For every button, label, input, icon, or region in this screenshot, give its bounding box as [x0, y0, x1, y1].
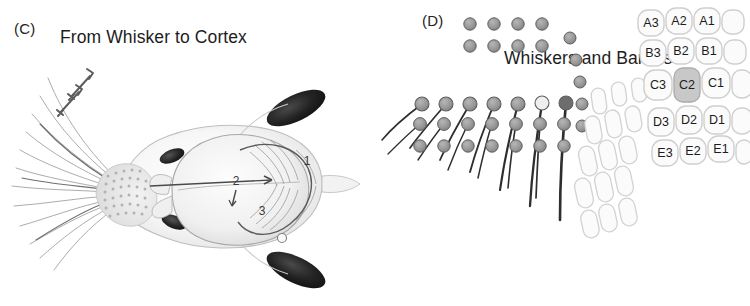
barrel-label-a2: A2	[671, 14, 686, 28]
panel-c: (C) From Whisker to Cortex	[0, 0, 400, 306]
barrel-label-e3: E3	[657, 146, 672, 160]
whisker-fan	[12, 78, 113, 270]
follicle-arc	[564, 32, 588, 132]
barrel-label-b3: B3	[645, 46, 660, 60]
follicle-row-4	[414, 118, 571, 131]
barrel-label-b2: B2	[673, 44, 688, 58]
whisker-pad-array	[382, 18, 588, 220]
annotation-3: 3	[259, 204, 266, 218]
barrel-field: A3 A2 A1 B3 B2 B1 C3 C2 C1 D3 D2 D1 E3 E…	[573, 8, 750, 239]
barrel-label-e2: E2	[685, 144, 700, 158]
follicle-row-5	[414, 140, 570, 152]
barrel-field-marker	[278, 234, 287, 243]
barrel-label-a3: A3	[643, 16, 658, 30]
follicle-row-2	[464, 40, 548, 52]
barrel-label-b1: B1	[701, 44, 716, 58]
ear-right	[262, 244, 331, 295]
barrel-label-d2: D2	[681, 113, 697, 127]
barrel-label-c1: C1	[708, 76, 724, 90]
barrel-label-a1: A1	[699, 14, 714, 28]
barrel-label-e1: E1	[713, 142, 728, 156]
barrel-label-c3: C3	[650, 78, 666, 92]
annotation-2: 2	[233, 174, 240, 188]
barrel-label-d3: D3	[653, 115, 669, 129]
barrel-label-d1: D1	[709, 113, 725, 127]
panel-d-illustration: A3 A2 A1 B3 B2 B1 C3 C2 C1 D3 D2 D1 E3 E…	[400, 0, 750, 306]
brainstem-stub	[322, 175, 360, 192]
figure-root: (C) From Whisker to Cortex	[0, 0, 750, 306]
barrel-label-c2: C2	[679, 78, 695, 92]
ear-left	[262, 82, 331, 133]
panel-c-illustration: 1 2 3	[0, 0, 400, 306]
follicle-row-3	[415, 96, 573, 111]
follicle-row-1	[464, 18, 548, 30]
annotation-1: 1	[304, 154, 311, 168]
panel-d: (D) Whiskers and Barrels	[400, 0, 750, 306]
whisker-motion-arrows	[57, 69, 93, 116]
